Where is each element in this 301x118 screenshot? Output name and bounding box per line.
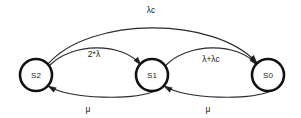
state-label: S1 (147, 71, 157, 80)
state-label: S0 (263, 71, 273, 80)
state-node-s0[interactable]: S0 (252, 59, 284, 91)
state-node-s2[interactable]: S2 (20, 59, 52, 91)
transition-label: λ+λc (202, 54, 220, 64)
markov-chain-diagram: λc 2*λ λ+λc μ μ (0, 0, 301, 118)
states-layer: S2 S1 S0 (20, 59, 284, 91)
state-label: S2 (31, 71, 41, 80)
diagram-canvas: λc 2*λ λ+λc μ μ (0, 0, 301, 118)
transition-label: 2*λ (88, 49, 101, 59)
transition-s1-to-s2: μ (47, 84, 155, 114)
transition-label: μ (206, 104, 211, 114)
transition-label: λc (147, 5, 156, 15)
transition-arc (48, 86, 155, 97)
transition-s0-to-s1: μ (163, 84, 271, 114)
transition-s1-to-s0: λ+λc (165, 48, 259, 67)
state-node-s1[interactable]: S1 (136, 59, 168, 91)
transition-label: μ (86, 104, 91, 114)
transition-arc (164, 86, 271, 97)
transition-s2-to-s0: λc (48, 5, 259, 65)
